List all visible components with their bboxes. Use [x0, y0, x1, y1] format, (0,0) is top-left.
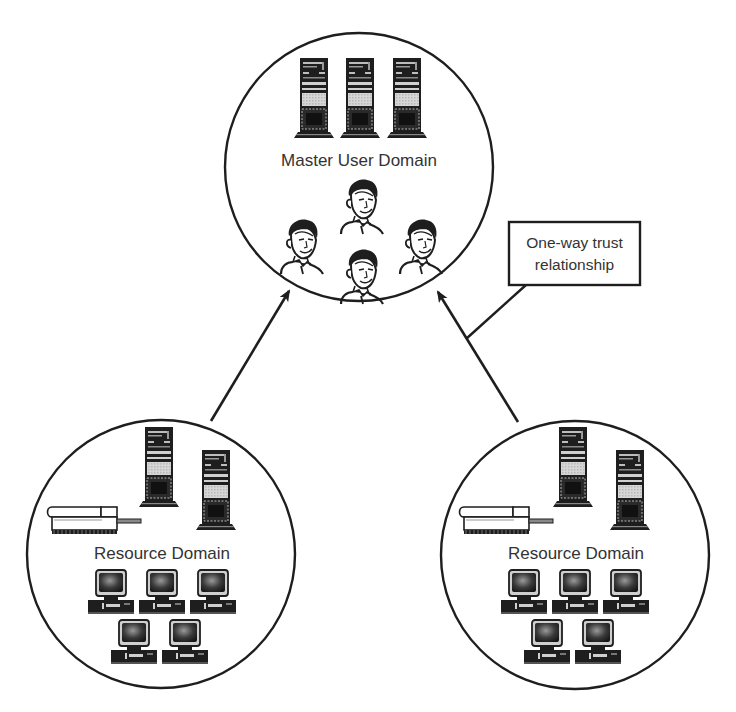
- trust-diagram: Master User Domain Resource Domain Resou…: [0, 0, 736, 712]
- computer-icon: [88, 570, 134, 614]
- computer-icon: [501, 570, 547, 614]
- callout-box: [509, 222, 640, 285]
- computer-icon: [111, 620, 157, 664]
- resource-domain-label: Resource Domain: [508, 544, 644, 563]
- computer-icon: [603, 570, 649, 614]
- master-user-domain: Master User Domain: [225, 33, 493, 304]
- computer-icon: [162, 620, 208, 664]
- printer-icon: [48, 507, 142, 534]
- server-icon: [553, 427, 593, 507]
- trust-arrow-left: [211, 291, 289, 421]
- computer-icon: [575, 620, 621, 664]
- master-domain-label: Master User Domain: [281, 151, 437, 170]
- computer-icon: [552, 570, 598, 614]
- callout-line-1: One-way trust: [526, 234, 623, 251]
- user-icon: [400, 220, 442, 274]
- user-icon: [281, 220, 323, 274]
- server-icon: [139, 427, 179, 507]
- resource-domain-left: Resource Domain: [27, 420, 295, 688]
- callout-connector: [466, 285, 526, 339]
- user-icon: [341, 180, 383, 234]
- resource-domain-right: Resource Domain: [441, 421, 709, 689]
- resource-domain-label: Resource Domain: [94, 544, 230, 563]
- server-icon: [340, 58, 380, 138]
- server-icon: [294, 58, 334, 138]
- server-icon: [387, 58, 427, 138]
- computer-icon: [139, 570, 185, 614]
- server-icon: [610, 450, 650, 530]
- trust-arrow-right: [438, 292, 518, 422]
- computer-icon: [524, 620, 570, 664]
- server-icon: [196, 450, 236, 530]
- computer-icon: [190, 570, 236, 614]
- callout-line-2: relationship: [535, 256, 614, 273]
- printer-icon: [460, 507, 554, 534]
- trust-callout: One-way trust relationship: [466, 222, 640, 339]
- user-icon: [341, 250, 383, 304]
